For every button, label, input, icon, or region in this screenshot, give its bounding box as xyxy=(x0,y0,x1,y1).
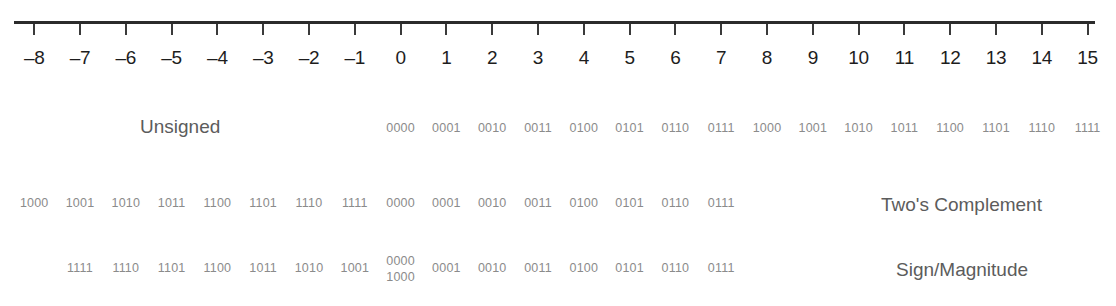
axis-tick xyxy=(537,24,539,35)
axis-tick xyxy=(491,24,493,35)
axis-tick-label: –3 xyxy=(253,47,274,69)
axis-tick xyxy=(125,24,127,35)
binary-code-label: 1110 xyxy=(296,196,323,211)
axis-tick xyxy=(629,24,631,35)
number-line-axis xyxy=(14,21,1095,24)
axis-tick-label: 15 xyxy=(1077,47,1098,69)
binary-code-label: 0100 xyxy=(569,261,598,276)
binary-code-label: 1111 xyxy=(1075,121,1101,136)
row-title-sign-magnitude: Sign/Magnitude xyxy=(896,259,1028,281)
binary-code-label: 0010 xyxy=(478,121,507,136)
binary-code-label: 0010 xyxy=(478,196,507,211)
binary-code-label: 1001 xyxy=(340,261,369,276)
binary-code-label: 00001000 xyxy=(386,253,415,285)
number-line-encoding-figure: –8–7–6–5–4–3–2–10123456789101112131415 0… xyxy=(0,0,1116,306)
axis-tick-label: 5 xyxy=(624,47,634,69)
binary-code-label: 0100 xyxy=(569,121,598,136)
binary-code-label: 1011 xyxy=(158,196,186,211)
binary-code-label: 1000 xyxy=(753,121,782,136)
axis-tick xyxy=(262,24,264,35)
binary-code-label: 0011 xyxy=(524,261,552,276)
binary-code-label: 1001 xyxy=(66,196,95,211)
axis-tick xyxy=(354,24,356,35)
axis-tick-label: 6 xyxy=(670,47,680,69)
binary-code-label: 0010 xyxy=(478,261,507,276)
binary-code-label: 0001 xyxy=(432,261,461,276)
axis-tick xyxy=(858,24,860,35)
axis-tick xyxy=(720,24,722,35)
binary-code-label: 1110 xyxy=(112,261,139,276)
binary-code-label: 1000 xyxy=(20,196,49,211)
binary-code-label: 1010 xyxy=(844,121,873,136)
binary-code-label: 0101 xyxy=(615,196,644,211)
axis-tick-label: –4 xyxy=(207,47,228,69)
axis-tick-label: –8 xyxy=(24,47,45,69)
binary-code-label: 1101 xyxy=(158,261,186,276)
binary-code-positive-zero: 0000 xyxy=(386,253,415,269)
row-title-unsigned: Unsigned xyxy=(140,116,220,138)
axis-tick xyxy=(33,24,35,35)
axis-tick xyxy=(1041,24,1043,35)
axis-tick-label: 1 xyxy=(441,47,451,69)
axis-tick-label: 10 xyxy=(848,47,869,69)
axis-tick xyxy=(79,24,81,35)
axis-tick xyxy=(766,24,768,35)
binary-code-label: 1010 xyxy=(295,261,324,276)
axis-tick-label: 14 xyxy=(1032,47,1053,69)
axis-tick xyxy=(445,24,447,35)
binary-code-label: 0110 xyxy=(662,261,690,276)
binary-code-label: 1101 xyxy=(249,196,277,211)
binary-code-label: 0001 xyxy=(432,196,461,211)
axis-tick-label: 9 xyxy=(808,47,818,69)
axis-tick xyxy=(308,24,310,35)
binary-code-label: 0100 xyxy=(569,196,598,211)
axis-tick xyxy=(903,24,905,35)
binary-code-label: 0111 xyxy=(708,196,735,211)
binary-code-label: 1001 xyxy=(798,121,827,136)
axis-tick-label: –2 xyxy=(299,47,320,69)
axis-tick-label: –1 xyxy=(345,47,366,69)
axis-tick xyxy=(400,24,402,35)
binary-code-label: 0111 xyxy=(708,121,735,136)
row-title-twos-complement: Two's Complement xyxy=(881,194,1042,216)
axis-tick xyxy=(674,24,676,35)
binary-code-label: 1100 xyxy=(936,121,964,136)
axis-tick xyxy=(1087,24,1089,35)
binary-code-negative-zero: 1000 xyxy=(386,269,415,285)
axis-tick xyxy=(216,24,218,35)
binary-code-label: 1011 xyxy=(891,121,919,136)
binary-code-label: 0001 xyxy=(432,121,461,136)
axis-tick-label: –5 xyxy=(161,47,182,69)
binary-code-label: 0000 xyxy=(386,121,415,136)
binary-code-label: 0101 xyxy=(615,261,644,276)
binary-code-label: 1101 xyxy=(982,121,1010,136)
binary-code-label: 1010 xyxy=(111,196,140,211)
axis-tick xyxy=(949,24,951,35)
binary-code-label: 1111 xyxy=(342,196,368,211)
binary-code-label: 1011 xyxy=(249,261,277,276)
axis-tick-label: 2 xyxy=(487,47,497,69)
binary-code-label: 1100 xyxy=(204,261,232,276)
axis-tick-label: 11 xyxy=(895,47,914,69)
axis-tick-label: –6 xyxy=(116,47,137,69)
binary-code-label: 1100 xyxy=(204,196,232,211)
axis-tick-label: –7 xyxy=(70,47,91,69)
axis-tick xyxy=(812,24,814,35)
axis-tick-label: 12 xyxy=(940,47,961,69)
binary-code-label: 0110 xyxy=(662,121,690,136)
binary-code-label: 0011 xyxy=(524,121,552,136)
binary-code-label: 0000 xyxy=(386,196,415,211)
axis-tick xyxy=(171,24,173,35)
axis-tick-label: 13 xyxy=(986,47,1007,69)
binary-code-label: 1111 xyxy=(67,261,93,276)
axis-tick xyxy=(583,24,585,35)
axis-tick-label: 0 xyxy=(395,47,405,69)
binary-code-label: 0111 xyxy=(708,261,735,276)
axis-tick-label: 4 xyxy=(579,47,589,69)
binary-code-label: 1110 xyxy=(1028,121,1055,136)
binary-code-label: 0110 xyxy=(662,196,690,211)
axis-tick xyxy=(995,24,997,35)
axis-tick-label: 3 xyxy=(533,47,543,69)
binary-code-label: 0011 xyxy=(524,196,552,211)
binary-code-label: 0101 xyxy=(615,121,644,136)
